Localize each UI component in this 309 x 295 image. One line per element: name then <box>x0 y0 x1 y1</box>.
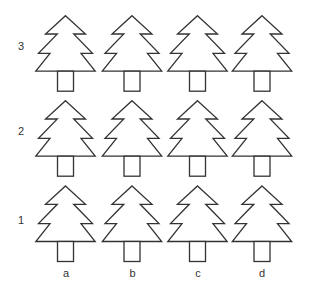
pine-tree-icon <box>102 16 161 92</box>
tree-crown <box>36 101 95 157</box>
tree-crown <box>168 101 227 157</box>
pine-tree-icon <box>36 16 95 92</box>
pine-tree-icon <box>168 101 227 177</box>
tree-trunk <box>254 242 270 262</box>
tree-crown <box>102 186 161 242</box>
pine-tree-icon <box>232 186 291 262</box>
tree-crown <box>36 186 95 242</box>
tree-trunk <box>190 242 206 262</box>
tree-trunk <box>58 156 74 176</box>
pine-tree-icon <box>36 101 95 177</box>
tree-trunk <box>124 156 140 176</box>
tree-crown <box>168 16 227 71</box>
tree-trunk <box>190 156 206 176</box>
tree-trunk <box>58 71 74 91</box>
column-label-d: d <box>259 268 265 279</box>
tree-crown <box>102 101 161 157</box>
tree-crown <box>36 16 95 71</box>
pine-tree-icon <box>36 186 95 262</box>
tree-trunk <box>190 71 206 91</box>
pine-tree-icon <box>102 101 161 177</box>
tree-crown <box>102 16 161 71</box>
tree-crown <box>232 16 291 71</box>
tree-trunk <box>124 242 140 262</box>
tree-trunk <box>58 242 74 262</box>
pine-tree-icon <box>168 186 227 262</box>
pine-tree-icon <box>168 16 227 92</box>
pine-tree-icon <box>102 186 161 262</box>
pine-tree-icon <box>232 16 291 92</box>
tree-crown <box>232 186 291 242</box>
row-label-3: 3 <box>18 41 24 52</box>
column-label-b: b <box>129 268 135 279</box>
tree-crown <box>232 101 291 157</box>
tree-trunk <box>124 71 140 91</box>
row-label-2: 2 <box>18 126 24 137</box>
tree-trunk <box>254 156 270 176</box>
tree-trunk <box>254 71 270 91</box>
tree-crown <box>168 186 227 242</box>
pine-tree-icon <box>232 101 291 177</box>
column-label-c: c <box>195 268 201 279</box>
trees-canvas <box>0 0 309 295</box>
column-label-a: a <box>63 268 69 279</box>
row-label-1: 1 <box>18 215 24 226</box>
